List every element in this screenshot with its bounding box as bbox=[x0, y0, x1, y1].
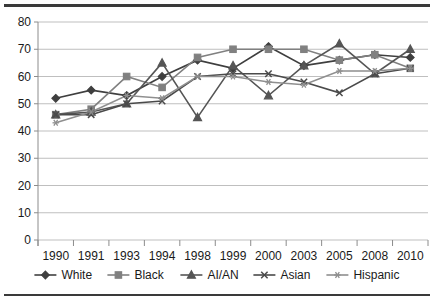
y-axis-tick-label: 20 bbox=[18, 179, 32, 193]
line-chart-plot: 01020304050607080 1990199119931994199819… bbox=[0, 0, 434, 298]
x-axis-tick-label: 1991 bbox=[78, 249, 105, 263]
data-point-white bbox=[52, 95, 60, 103]
data-point-ai-an bbox=[158, 59, 166, 66]
legend-group: WhiteBlackAI/ANAsianHispanic bbox=[34, 268, 399, 282]
legend-marker-icon bbox=[334, 272, 340, 278]
y-axis-group: 01020304050607080 bbox=[18, 15, 38, 247]
data-point-white bbox=[158, 73, 166, 81]
data-point-black bbox=[230, 46, 236, 52]
legend-item-hispanic[interactable]: Hispanic bbox=[326, 268, 399, 282]
legend-item-white[interactable]: White bbox=[34, 268, 92, 282]
x-axis-tick-label: 2003 bbox=[291, 249, 318, 263]
x-axis-tick-label: 1990 bbox=[42, 249, 69, 263]
x-axis-tick-label: 1993 bbox=[113, 249, 140, 263]
legend-item-asian[interactable]: Asian bbox=[253, 268, 310, 282]
y-axis-tick-label: 70 bbox=[18, 42, 32, 56]
legend-marker-icon bbox=[115, 272, 121, 278]
legend-item-black[interactable]: Black bbox=[107, 268, 164, 282]
x-axis-tick-label: 1998 bbox=[184, 249, 211, 263]
data-point-black bbox=[372, 52, 378, 58]
y-axis-tick-label: 60 bbox=[18, 70, 32, 84]
legend-marker-icon bbox=[42, 271, 50, 279]
x-axis-group: 1990199119931994199819992000200320052008… bbox=[38, 240, 428, 263]
legend-label: Asian bbox=[280, 268, 310, 282]
x-axis-tick-label: 1994 bbox=[149, 249, 176, 263]
data-point-hispanic bbox=[336, 68, 342, 74]
series-group bbox=[52, 40, 415, 126]
y-axis-tick-label: 50 bbox=[18, 97, 32, 111]
data-point-black bbox=[301, 46, 307, 52]
y-axis-tick-label: 10 bbox=[18, 206, 32, 220]
legend-label: White bbox=[61, 268, 92, 282]
legend-label: AI/AN bbox=[207, 268, 238, 282]
x-axis-tick-label: 2005 bbox=[326, 249, 353, 263]
data-point-ai-an bbox=[335, 40, 343, 47]
data-point-black bbox=[194, 54, 200, 60]
legend-item-ai-an[interactable]: AI/AN bbox=[180, 268, 238, 282]
data-point-black bbox=[159, 84, 165, 90]
data-point-black bbox=[123, 73, 129, 79]
gridlines-group bbox=[38, 22, 428, 240]
x-axis-tick-label: 2000 bbox=[255, 249, 282, 263]
chart-container: 01020304050607080 1990199119931994199819… bbox=[0, 0, 434, 298]
x-axis-tick-label: 1999 bbox=[220, 249, 247, 263]
data-point-hispanic bbox=[53, 120, 59, 126]
x-axis-tick-label: 2010 bbox=[397, 249, 424, 263]
series-line-ai-an bbox=[56, 44, 411, 118]
x-axis-tick-label: 2008 bbox=[361, 249, 388, 263]
data-point-black bbox=[265, 46, 271, 52]
data-point-white bbox=[87, 86, 95, 94]
y-axis-tick-label: 30 bbox=[18, 151, 32, 165]
data-point-hispanic bbox=[265, 79, 271, 85]
data-point-ai-an bbox=[229, 61, 237, 68]
legend-label: Hispanic bbox=[353, 268, 399, 282]
y-axis-tick-label: 80 bbox=[18, 15, 32, 29]
data-point-black bbox=[336, 57, 342, 63]
y-axis-tick-label: 0 bbox=[24, 233, 31, 247]
data-point-white bbox=[406, 54, 414, 62]
y-axis-tick-label: 40 bbox=[18, 124, 32, 138]
legend-label: Black bbox=[134, 268, 164, 282]
